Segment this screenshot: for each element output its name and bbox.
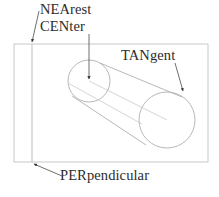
leader-line-perpendicular: [34, 164, 62, 176]
label-tangent: TANgent: [121, 48, 175, 63]
cylinder-axis-line: [89, 81, 167, 120]
cylinder-upper-edge: [100, 63, 182, 97]
label-nearest: NEArest: [40, 2, 91, 17]
leader-line-tangent: [175, 63, 183, 91]
geometry-diagram: NEArest CENter TANgent PERpendicular: [0, 0, 219, 197]
label-perpendicular: PERpendicular: [60, 168, 149, 183]
label-center: CENter: [40, 19, 85, 34]
leader-line-nearest: [32, 11, 39, 42]
outer-rectangle: [14, 44, 208, 162]
